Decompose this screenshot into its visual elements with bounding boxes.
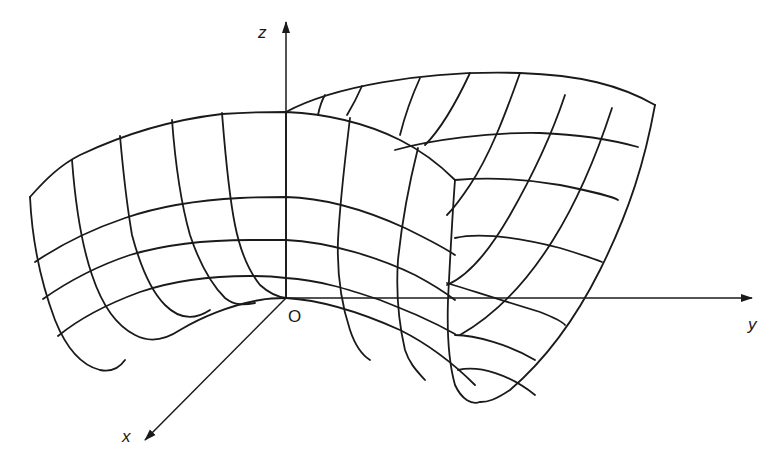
origin-label: O (288, 307, 301, 326)
back-grid-line (286, 73, 655, 112)
front-grid-line (286, 298, 475, 385)
back-grid-line (460, 108, 612, 335)
y-axis-label: y (747, 315, 758, 334)
front-grid-line (338, 118, 370, 360)
back-grid-line (455, 179, 618, 200)
back-grid-line (447, 95, 565, 285)
back-grid-line (447, 73, 520, 215)
back-grid-line (458, 369, 535, 395)
z-axis-label: z (257, 23, 267, 42)
back-grid-line (455, 335, 535, 360)
front-grid-line (30, 112, 455, 197)
back-grid-line (455, 236, 602, 262)
back-grid-line (447, 283, 565, 325)
back-grid-line (425, 73, 470, 145)
diagram-canvas: z y x O (0, 0, 778, 468)
front-grid-line (35, 197, 455, 262)
front-grid-line (43, 240, 455, 300)
saddle-surface-diagram: z y x O (0, 0, 778, 468)
back-grid-line (395, 133, 638, 150)
front-grid-line (120, 136, 210, 317)
back-sheet-grid (286, 73, 655, 402)
back-grid-line (347, 86, 362, 115)
back-grid-line (400, 78, 420, 135)
x-axis-label: x (121, 427, 131, 446)
x-axis (145, 298, 286, 440)
front-sheet-grid (30, 112, 480, 403)
back-grid-line (480, 105, 655, 402)
front-grid-line (222, 113, 286, 298)
front-grid-line (397, 148, 425, 380)
